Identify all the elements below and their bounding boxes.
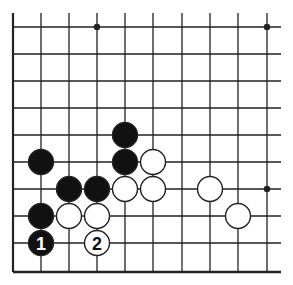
black-stone	[113, 150, 138, 175]
white-stone	[57, 204, 82, 229]
white-stone	[198, 177, 223, 202]
white-stone	[141, 177, 166, 202]
white-stone	[141, 150, 166, 175]
black-stone	[29, 150, 54, 175]
go-board-diagram: 12	[0, 0, 293, 285]
white-stone	[113, 177, 138, 202]
white-stone: 2	[85, 231, 110, 256]
white-stone	[85, 204, 110, 229]
white-stone	[226, 204, 251, 229]
board-grid	[13, 13, 281, 272]
black-stone	[113, 123, 138, 148]
star-point	[264, 24, 270, 30]
black-stone	[29, 204, 54, 229]
star-point	[94, 24, 100, 30]
black-stone	[57, 177, 82, 202]
star-point	[264, 186, 270, 192]
move-number: 2	[92, 234, 102, 254]
move-number: 1	[36, 234, 46, 254]
black-stone: 1	[29, 231, 54, 256]
black-stone	[85, 177, 110, 202]
